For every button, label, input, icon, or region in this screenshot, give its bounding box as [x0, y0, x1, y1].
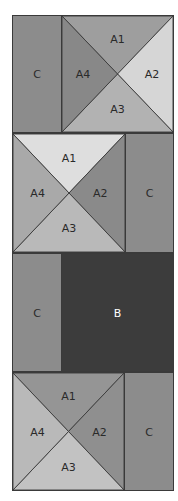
label-a2: A2 [145, 68, 160, 81]
piece-c: C [125, 133, 174, 253]
label-a3: A3 [61, 460, 76, 473]
label-a3: A3 [62, 222, 77, 235]
row-2: A1 A2 A3 A4 C [12, 133, 174, 253]
piece-label: C [33, 68, 41, 81]
label-a2: A2 [93, 187, 108, 200]
row-3: C B [12, 253, 174, 372]
hourglass-square: A1 A2 A3 A4 [61, 15, 174, 133]
piece-c: C [12, 253, 62, 372]
label-a2: A2 [92, 425, 107, 438]
label-a1: A1 [61, 390, 76, 403]
label-a1: A1 [110, 33, 125, 46]
piece-c: C [124, 372, 174, 491]
piece-label: C [33, 306, 41, 319]
piece-label: C [145, 425, 153, 438]
label-a4: A4 [76, 68, 91, 81]
piece-label: C [146, 187, 154, 200]
piece-label: B [114, 306, 122, 319]
row-4: A1 A2 A3 A4 C [12, 372, 174, 491]
row-1: C A1 A2 A3 A4 [12, 15, 174, 133]
piece-b: B [61, 253, 174, 372]
label-a4: A4 [30, 425, 45, 438]
quilt-block-diagram: C A1 A2 A3 A4 A1 A2 A3 [12, 15, 174, 491]
hourglass-square: A1 A2 A3 A4 [12, 133, 126, 253]
label-a1: A1 [62, 151, 77, 164]
hourglass-square: A1 A2 A3 A4 [12, 372, 125, 491]
label-a3: A3 [110, 102, 125, 115]
piece-c: C [12, 15, 62, 133]
label-a4: A4 [30, 187, 45, 200]
